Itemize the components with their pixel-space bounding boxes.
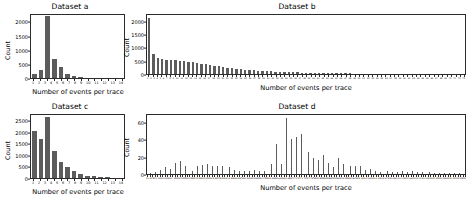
y-tick-mark <box>28 121 30 122</box>
bar <box>31 74 38 78</box>
panel-dataset-c: Dataset c Count 05001000150020002500 123… <box>0 102 140 200</box>
panel-b-plot-area <box>146 14 466 75</box>
bar <box>38 139 45 178</box>
panel-dataset-d: Dataset d Count 0204060 2345678910111213… <box>120 102 472 200</box>
bar <box>51 59 58 78</box>
bar <box>31 131 38 178</box>
panel-d-xticks: 2345678910111213141516171819202122232425… <box>146 177 466 180</box>
bar <box>64 167 71 178</box>
y-tick-label: 2000 <box>15 20 28 25</box>
bar <box>84 176 91 178</box>
panel-b-xlabel: Number of events per trace <box>246 84 366 92</box>
panel-c-plot-area <box>30 114 125 179</box>
bar <box>44 117 51 178</box>
panel-a-bars <box>31 15 124 78</box>
y-tick-label: 2000 <box>131 19 144 24</box>
y-tick-mark <box>144 140 146 141</box>
panel-c-bars <box>31 115 124 178</box>
panel-d-plot-area <box>146 114 466 175</box>
x-tick-label: 73 <box>461 77 466 80</box>
panel-c-title: Dataset c <box>0 102 140 111</box>
x-tick-label: 10 <box>84 81 92 85</box>
y-tick-label: 2500 <box>15 118 28 123</box>
bar <box>58 162 65 178</box>
panel-c-xticks: 1234567891011121314 <box>30 181 125 185</box>
y-tick-mark <box>28 132 30 133</box>
y-tick-mark <box>144 48 146 49</box>
panel-b-ytickmarks <box>144 14 146 75</box>
bar <box>91 176 98 178</box>
x-tick-label: 12 <box>100 81 108 85</box>
y-tick-mark <box>28 144 30 145</box>
x-tick-label: 130 <box>463 177 466 180</box>
panel-a-yaxis: 0500100015002000 <box>0 14 28 79</box>
panel-dataset-b: Dataset b Count 0500100015002000 1234567… <box>120 2 472 100</box>
y-tick-mark <box>144 35 146 36</box>
bar <box>64 74 71 78</box>
panel-c-ytickmarks <box>28 114 30 179</box>
y-tick-mark <box>144 122 146 123</box>
y-tick-mark <box>28 36 30 37</box>
panel-d-ytickmarks <box>144 114 146 175</box>
x-tick-label: 13 <box>109 181 117 185</box>
bar <box>71 76 78 78</box>
y-tick-mark <box>28 22 30 23</box>
bar <box>38 70 45 78</box>
panel-b-yaxis: 0500100015002000 <box>120 14 144 75</box>
x-tick-label: 12 <box>100 181 108 185</box>
bar <box>77 174 84 178</box>
panel-b-title: Dataset b <box>130 2 464 11</box>
y-tick-label: 500 <box>18 165 28 170</box>
bar <box>58 67 65 78</box>
y-tick-label: 1500 <box>131 33 144 38</box>
figure-canvas: Dataset a Count 0500100015002000 1234567… <box>0 0 472 200</box>
panel-d-yaxis: 0204060 <box>120 114 144 175</box>
panel-a-ytickmarks <box>28 14 30 79</box>
panel-d-bars <box>147 115 465 174</box>
x-tick-label: 11 <box>92 81 100 85</box>
panel-b-bars <box>147 15 465 74</box>
y-tick-label: 1000 <box>15 153 28 158</box>
bar <box>77 77 84 78</box>
panel-d-xlabel: Number of events per trace <box>246 184 366 192</box>
y-tick-label: 2000 <box>15 130 28 135</box>
y-tick-label: 1500 <box>15 142 28 147</box>
panel-dataset-a: Dataset a Count 0500100015002000 1234567… <box>0 2 140 100</box>
y-tick-mark <box>144 157 146 158</box>
y-tick-mark <box>28 50 30 51</box>
x-tick-label: 10 <box>84 181 92 185</box>
y-tick-mark <box>144 22 146 23</box>
y-tick-mark <box>28 167 30 168</box>
y-tick-label: 500 <box>18 62 28 67</box>
y-tick-mark <box>28 155 30 156</box>
bar <box>463 173 465 174</box>
x-tick-label: 13 <box>109 81 117 85</box>
y-tick-label: 500 <box>134 59 144 64</box>
panel-a-plot-area <box>30 14 125 79</box>
y-tick-label: 1000 <box>15 48 28 53</box>
bar <box>104 177 111 178</box>
x-tick-label: 11 <box>92 181 100 185</box>
panel-d-title: Dataset d <box>130 102 464 111</box>
bar <box>71 171 78 178</box>
y-tick-label: 1500 <box>15 34 28 39</box>
panel-c-yaxis: 05001000150020002500 <box>0 114 28 179</box>
panel-a-xticks: 1234567891011121314 <box>30 81 125 85</box>
panel-b-xticks: 1234567891011121314151617181920212223242… <box>146 77 466 80</box>
bar <box>97 177 104 178</box>
y-tick-mark <box>144 61 146 62</box>
bar <box>51 151 58 178</box>
bar <box>44 16 51 78</box>
panel-a-title: Dataset a <box>0 2 140 11</box>
y-tick-label: 1000 <box>131 46 144 51</box>
y-tick-mark <box>28 64 30 65</box>
